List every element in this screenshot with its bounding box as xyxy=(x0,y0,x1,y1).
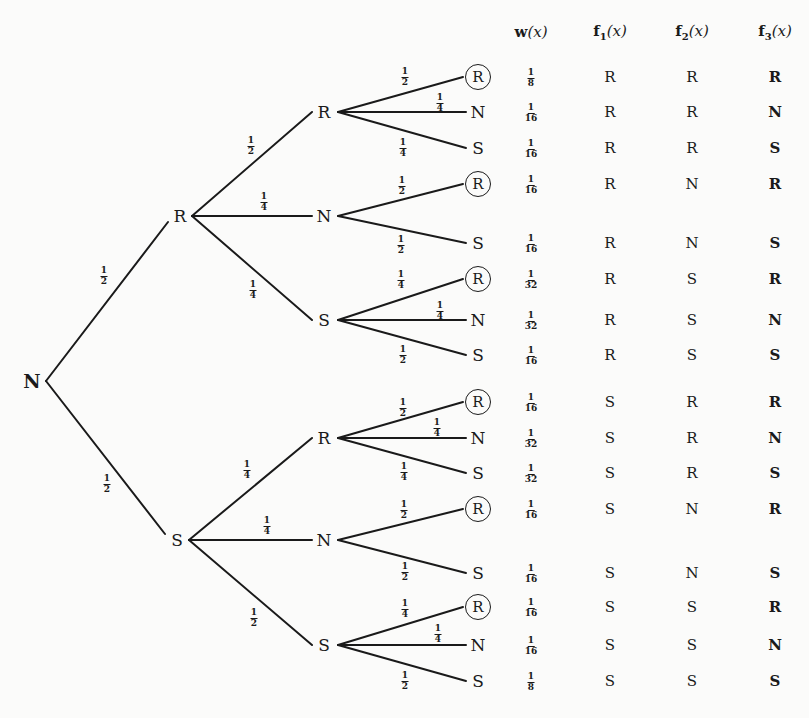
f1-cell: S xyxy=(605,564,615,582)
fraction-numerator: 1 xyxy=(528,346,534,355)
leaf-node: N xyxy=(471,430,486,447)
fraction-numerator: 1 xyxy=(528,564,534,573)
header-argument: (x) xyxy=(772,22,792,40)
f2-cell: S xyxy=(687,311,697,329)
fraction-numerator: 1 xyxy=(402,671,408,680)
fraction-numerator: 1 xyxy=(398,235,404,244)
fraction-numerator: 1 xyxy=(264,516,270,525)
f3-cell: S xyxy=(770,564,781,582)
f1-cell: R xyxy=(604,234,615,252)
f2-cell: N xyxy=(685,500,698,518)
fraction-numerator: 1 xyxy=(528,393,534,402)
fraction-numerator: 1 xyxy=(401,500,407,509)
edge-probability: 14 xyxy=(401,462,408,482)
f3-cell: R xyxy=(769,270,781,288)
f3-cell: N xyxy=(768,636,782,654)
fraction-numerator: 1 xyxy=(250,280,256,289)
fraction-numerator: 1 xyxy=(528,464,534,473)
f3-cell: N xyxy=(768,103,782,121)
leaf-node-circled: R xyxy=(465,64,491,90)
tree-edge xyxy=(192,112,312,216)
weight-cell: 18 xyxy=(528,68,535,88)
fraction-numerator: 1 xyxy=(528,139,534,148)
fraction-denominator: 2 xyxy=(402,573,408,582)
fraction-numerator: 1 xyxy=(399,176,405,185)
fraction-numerator: 1 xyxy=(261,192,267,201)
edge-probability: 12 xyxy=(401,500,408,520)
edge-probability: 12 xyxy=(398,235,405,255)
fraction-denominator: 32 xyxy=(525,281,538,290)
fraction-numerator: 1 xyxy=(437,93,443,102)
f1-cell: R xyxy=(604,103,615,121)
f3-cell: S xyxy=(770,672,781,690)
column-header-f2: f2(x) xyxy=(675,22,709,42)
leaf-node-circled: R xyxy=(465,496,491,522)
fraction-denominator: 16 xyxy=(525,357,538,366)
fraction-denominator: 4 xyxy=(434,429,440,438)
fraction-numerator: 1 xyxy=(398,270,404,279)
fraction-denominator: 8 xyxy=(528,79,534,88)
f3-cell: R xyxy=(769,175,781,193)
fraction-numerator: 1 xyxy=(400,345,406,354)
f2-cell: R xyxy=(686,464,697,482)
fraction-numerator: 1 xyxy=(528,598,534,607)
fraction-denominator: 2 xyxy=(402,78,408,87)
f1-cell: R xyxy=(604,175,615,193)
edge-probability: 12 xyxy=(402,562,409,582)
fraction-numerator: 1 xyxy=(528,103,534,112)
f2-cell: R xyxy=(686,429,697,447)
leaf-node: N xyxy=(471,104,486,121)
edge-probability: 12 xyxy=(402,67,409,87)
f2-cell: S xyxy=(687,598,697,616)
fraction-denominator: 4 xyxy=(250,291,256,300)
leaf-node: N xyxy=(471,312,486,329)
edge-probability: 14 xyxy=(437,93,444,113)
fraction-denominator: 4 xyxy=(244,471,250,480)
leaf-node: N xyxy=(471,637,486,654)
f3-cell: S xyxy=(770,464,781,482)
column-header-f1: f1(x) xyxy=(593,22,627,42)
fraction-numerator: 1 xyxy=(528,270,534,279)
fraction-numerator: 1 xyxy=(528,636,534,645)
fraction-denominator: 4 xyxy=(401,473,407,482)
weight-cell: 116 xyxy=(525,175,538,195)
fraction-numerator: 1 xyxy=(251,608,257,617)
level2-node: S xyxy=(318,312,330,329)
fraction-denominator: 32 xyxy=(525,475,538,484)
fraction-numerator: 1 xyxy=(248,136,254,145)
weight-cell: 132 xyxy=(525,464,538,484)
fraction-denominator: 4 xyxy=(400,149,406,158)
edge-probability: 14 xyxy=(264,516,271,536)
edge-probability: 14 xyxy=(437,301,444,321)
fraction-denominator: 2 xyxy=(104,485,110,494)
f2-cell: R xyxy=(686,68,697,86)
f1-cell: S xyxy=(605,672,615,690)
f1-cell: S xyxy=(605,393,615,411)
column-header-f3: f3(x) xyxy=(758,22,792,42)
fraction-numerator: 1 xyxy=(101,266,107,275)
f1-cell: S xyxy=(605,598,615,616)
edge-probability: 14 xyxy=(402,599,409,619)
fraction-numerator: 1 xyxy=(528,500,534,509)
fraction-numerator: 1 xyxy=(528,175,534,184)
fraction-denominator: 4 xyxy=(402,610,408,619)
fraction-denominator: 2 xyxy=(400,409,406,418)
f1-cell: R xyxy=(604,270,615,288)
fraction-denominator: 4 xyxy=(264,527,270,536)
edge-probability: 12 xyxy=(399,176,406,196)
f2-cell: R xyxy=(686,139,697,157)
edge-probability: 14 xyxy=(400,138,407,158)
fraction-denominator: 4 xyxy=(398,281,404,290)
edge-probability: 14 xyxy=(250,280,257,300)
fraction-denominator: 2 xyxy=(402,682,408,691)
leaf-node-circled: R xyxy=(465,266,491,292)
edge-probability: 12 xyxy=(104,474,111,494)
f1-cell: R xyxy=(604,68,615,86)
fraction-denominator: 32 xyxy=(525,440,538,449)
fraction-numerator: 1 xyxy=(401,462,407,471)
fraction-denominator: 4 xyxy=(261,203,267,212)
level2-node: R xyxy=(318,430,331,447)
edge-probability: 14 xyxy=(261,192,268,212)
f3-cell: S xyxy=(770,139,781,157)
leaf-node-circled: R xyxy=(465,389,491,415)
